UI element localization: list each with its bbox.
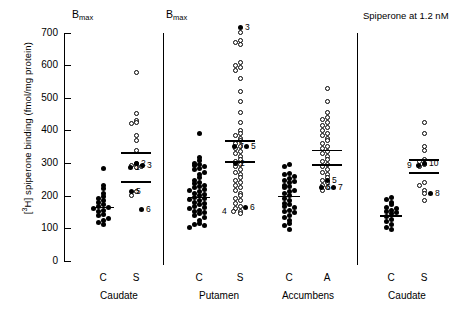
y-axis-bottom-cap (64, 261, 71, 262)
data-point-open (233, 68, 238, 73)
data-point-number-label-7: 7 (338, 183, 343, 192)
panel-divider (163, 33, 164, 266)
x-axis-group-label-a-accumbens: A (307, 272, 347, 283)
x-axis-region-label: Caudate (362, 290, 452, 301)
data-point-filled (287, 202, 292, 207)
y-axis-label-prefix: [ (22, 211, 33, 214)
data-point-open (325, 157, 330, 162)
y-axis-tick-label: 300 (28, 157, 58, 168)
y-axis-tick (65, 228, 71, 229)
y-axis-tick (65, 98, 71, 99)
data-point-open (422, 120, 427, 125)
y-axis-tick-label: 0 (28, 255, 58, 266)
data-point-open (233, 40, 238, 45)
data-point-open (233, 133, 238, 138)
numbered-data-point-7 (331, 185, 336, 190)
data-point-open (325, 144, 330, 149)
data-point-filled (287, 162, 292, 167)
mean-line (225, 140, 255, 141)
bmax-header: Bmax (72, 8, 93, 20)
data-point-filled (389, 217, 394, 222)
data-point-number-label-3: 3 (245, 23, 250, 32)
numbered-data-point-6 (139, 207, 144, 212)
data-point-open (238, 211, 243, 216)
data-point-open (233, 188, 238, 193)
x-axis-group-label-s-caudate: S (404, 272, 444, 283)
data-point-filled (202, 223, 207, 228)
data-point-filled (197, 131, 202, 136)
data-point-open (238, 30, 243, 35)
mean-line (188, 197, 210, 198)
data-point-open (422, 191, 427, 196)
numbered-data-point-10 (422, 161, 427, 166)
x-axis-group-label-c-accumbens: C (269, 272, 309, 283)
data-point-number-label-5: 5 (251, 142, 256, 151)
data-point-filled (282, 185, 287, 190)
data-point-open (233, 170, 238, 175)
data-point-filled (287, 221, 292, 226)
numbered-data-point-8 (428, 191, 433, 196)
mean-line (409, 172, 439, 173)
data-point-filled (192, 167, 197, 172)
data-point-filled (282, 164, 287, 169)
y-axis-label-superscript: 3 (21, 207, 28, 211)
numbered-data-point-7 (232, 144, 237, 149)
data-point-number-label-9: 9 (407, 161, 412, 170)
y-axis-tick (65, 196, 71, 197)
numbered-data-point-3 (140, 163, 145, 168)
data-point-filled (384, 197, 389, 202)
panel-divider (357, 33, 358, 266)
y-axis-tick-label: 400 (28, 124, 58, 135)
data-point-filled (292, 179, 297, 184)
data-point-filled (282, 172, 287, 177)
numbered-data-point-6 (319, 185, 324, 190)
x-axis-region-label: Accumbens (263, 290, 353, 301)
mean-line (312, 150, 342, 151)
data-point-open (422, 180, 427, 185)
data-point-open (320, 133, 325, 138)
data-point-filled (202, 215, 207, 220)
data-point-open (320, 123, 325, 128)
x-axis-group-label-s-caudate: S (116, 272, 156, 283)
data-point-open (233, 63, 238, 68)
data-point-open (320, 170, 325, 175)
y-axis-tick-label: 700 (28, 27, 58, 38)
numbered-data-point-5 (129, 189, 134, 194)
data-point-filled (187, 188, 192, 193)
data-point-open (238, 198, 243, 203)
data-point-filled (197, 202, 202, 207)
data-point-filled (384, 225, 389, 230)
y-axis-spine (64, 33, 65, 262)
data-point-filled (389, 202, 394, 207)
mean-line (312, 164, 342, 165)
data-point-open (325, 131, 330, 136)
x-axis-group-label-c-putamen: C (179, 272, 219, 283)
y-axis-tick-label: 600 (28, 59, 58, 70)
data-point-filled (389, 195, 394, 200)
y-axis-tick (65, 163, 71, 164)
y-axis-tick-label: 200 (28, 190, 58, 201)
data-point-filled (192, 213, 197, 218)
data-point-filled (192, 185, 197, 190)
data-point-open (134, 138, 139, 143)
data-point-filled (389, 227, 394, 232)
data-point-open (238, 131, 243, 136)
data-point-open (233, 178, 238, 183)
data-point-filled (101, 212, 106, 217)
data-point-number-label-6: 6 (146, 205, 151, 214)
mean-line (225, 161, 255, 162)
data-point-open (238, 89, 243, 94)
data-point-filled (202, 170, 207, 175)
x-axis-group-label-s-putamen: S (220, 272, 260, 283)
y-axis-tick (65, 130, 71, 131)
data-point-filled (202, 164, 207, 169)
bmax-header: Bmax (166, 8, 187, 20)
data-point-number-label-4: 4 (222, 207, 227, 216)
data-point-open (134, 70, 139, 75)
data-point-open (238, 120, 243, 125)
data-point-filled (202, 187, 207, 192)
data-point-number-label-5: 5 (332, 176, 337, 185)
data-point-open (320, 151, 325, 156)
data-point-number-label-5: 5 (136, 187, 141, 196)
data-point-open (320, 178, 325, 183)
